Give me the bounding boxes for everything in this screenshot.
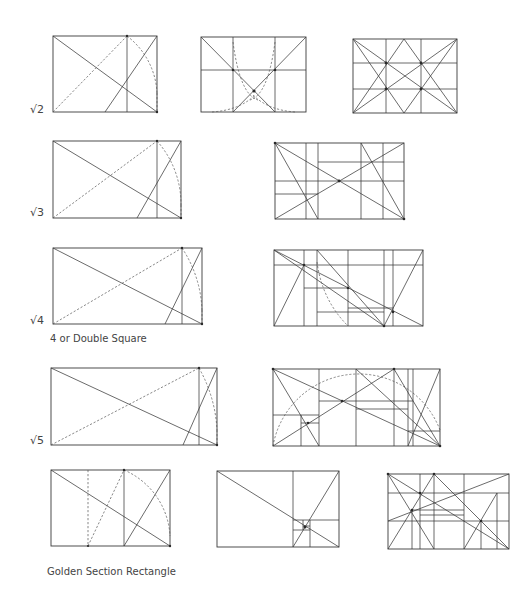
figure-golden-b xyxy=(217,471,339,547)
figure-root5-a xyxy=(51,367,218,446)
figure-root2-c xyxy=(353,39,457,113)
figure-golden-a xyxy=(51,469,171,547)
figure-golden-c xyxy=(387,473,509,549)
label-root3: √3 xyxy=(30,206,44,219)
label-root5: √5 xyxy=(30,434,44,447)
figure-root2-a xyxy=(53,35,158,113)
caption-golden-section: Golden Section Rectangle xyxy=(47,566,176,577)
rectangle-diagram: √2 √3 √4 √5 4 or Double Square Golden Se… xyxy=(0,0,523,604)
figure-root5-b xyxy=(272,368,442,448)
figure-root2-b xyxy=(201,37,306,112)
figure-root4-a xyxy=(53,247,203,325)
figure-root3-b xyxy=(274,142,406,221)
figure-root3-a xyxy=(53,140,182,219)
figure-root4-b xyxy=(274,250,423,327)
label-root2: √2 xyxy=(30,103,44,116)
label-root4: √4 xyxy=(30,314,44,327)
caption-double-square: 4 or Double Square xyxy=(50,333,147,344)
